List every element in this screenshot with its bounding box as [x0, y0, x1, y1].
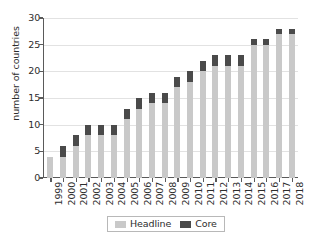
legend-item-headline[interactable]: Headline [115, 219, 171, 229]
bar-group[interactable] [73, 135, 79, 178]
bar-segment-core[interactable] [289, 29, 295, 34]
bar-group[interactable] [98, 125, 104, 178]
bar-segment-core[interactable] [251, 39, 257, 44]
x-axis-tick-label: 2009 [181, 182, 191, 205]
bar-segment-headline[interactable] [276, 34, 282, 178]
bar-segment-headline[interactable] [162, 103, 168, 178]
bar-segment-core[interactable] [73, 135, 79, 146]
bar-group[interactable] [174, 77, 180, 178]
bar-segment-headline[interactable] [225, 66, 231, 178]
bar-segment-headline[interactable] [187, 82, 193, 178]
bar-segment-core[interactable] [174, 77, 180, 88]
x-axis-tick-label: 2003 [105, 182, 115, 205]
x-axis-tick-label: 2017 [282, 182, 292, 205]
bar-segment-core[interactable] [111, 125, 117, 136]
bar-group[interactable] [263, 39, 269, 178]
bar-group[interactable] [124, 109, 130, 178]
bar-segment-headline[interactable] [238, 66, 244, 178]
bar-group[interactable] [85, 125, 91, 178]
x-axis-tick-label: 2005 [130, 182, 140, 205]
bar-segment-headline[interactable] [200, 71, 206, 178]
bar-group[interactable] [225, 55, 231, 178]
bar-group[interactable] [149, 93, 155, 178]
x-axis-tick-label: 2012 [219, 182, 229, 205]
bars-layer [44, 18, 298, 178]
bar-segment-core[interactable] [124, 109, 130, 120]
x-axis-tick-label: 2011 [206, 182, 216, 205]
bar-segment-headline[interactable] [111, 135, 117, 178]
x-axis-tick-label: 1999 [54, 182, 64, 205]
legend-swatch-icon [115, 221, 126, 228]
bar-segment-headline[interactable] [212, 66, 218, 178]
bar-group[interactable] [60, 146, 66, 178]
bar-segment-core[interactable] [149, 93, 155, 104]
bar-group[interactable] [136, 98, 142, 178]
bar-group[interactable] [238, 55, 244, 178]
bar-group[interactable] [162, 93, 168, 178]
x-axis-tick-label: 2014 [244, 182, 254, 205]
x-axis-tick-label: 2008 [168, 182, 178, 205]
x-axis-tick-label: 2006 [143, 182, 153, 205]
bar-segment-core[interactable] [263, 39, 269, 44]
bar-group[interactable] [111, 125, 117, 178]
bar-segment-core[interactable] [225, 55, 231, 66]
x-axis-tick-label: 2001 [79, 182, 89, 205]
x-axis-tick-label: 2013 [232, 182, 242, 205]
bar-group[interactable] [200, 61, 206, 178]
x-axis-tick-label: 2015 [257, 182, 267, 205]
bar-segment-core[interactable] [136, 98, 142, 109]
bar-segment-core[interactable] [60, 146, 66, 157]
bar-segment-core[interactable] [85, 125, 91, 136]
legend-item-core[interactable]: Core [180, 219, 217, 229]
legend-swatch-icon [180, 221, 191, 228]
bar-group[interactable] [289, 29, 295, 178]
x-axis-tick-label: 2018 [295, 182, 305, 205]
y-axis-tick-labels: 051015202530 [21, 18, 40, 178]
legend-label: Headline [130, 219, 171, 229]
bar-segment-headline[interactable] [174, 87, 180, 178]
bar-segment-headline[interactable] [60, 157, 66, 178]
bar-segment-core[interactable] [276, 29, 282, 34]
bar-group[interactable] [251, 39, 257, 178]
x-axis-tick-label: 2007 [155, 182, 165, 205]
x-axis-tick-label: 2004 [117, 182, 127, 205]
bar-segment-headline[interactable] [124, 119, 130, 178]
bar-group[interactable] [276, 29, 282, 178]
bar-segment-headline[interactable] [289, 34, 295, 178]
bar-segment-core[interactable] [200, 61, 206, 72]
bar-segment-core[interactable] [162, 93, 168, 104]
x-axis-tick-label: 2016 [270, 182, 280, 205]
x-axis-tick-label: 2000 [67, 182, 77, 205]
bar-segment-headline[interactable] [136, 109, 142, 178]
chart-legend: HeadlineCore [107, 216, 225, 232]
bar-segment-headline[interactable] [251, 45, 257, 178]
bar-segment-headline[interactable] [85, 135, 91, 178]
bar-segment-headline[interactable] [73, 146, 79, 178]
bar-segment-headline[interactable] [149, 103, 155, 178]
bar-segment-headline[interactable] [47, 157, 53, 178]
chart-container: number of countries 051015202530 1999200… [0, 0, 328, 239]
bar-segment-headline[interactable] [263, 45, 269, 178]
bar-group[interactable] [212, 55, 218, 178]
x-axis-tick-labels: 1999200020012002200320042005200620072008… [44, 182, 298, 216]
x-axis-tick-label: 2010 [194, 182, 204, 205]
bar-group[interactable] [187, 71, 193, 178]
x-axis-tick-label: 2002 [92, 182, 102, 205]
y-axis-title: number of countries [10, 9, 21, 139]
bar-segment-core[interactable] [212, 55, 218, 66]
bar-segment-core[interactable] [238, 55, 244, 66]
bar-segment-core[interactable] [187, 71, 193, 82]
legend-label: Core [195, 219, 217, 229]
bar-segment-headline[interactable] [98, 135, 104, 178]
bar-group[interactable] [47, 157, 53, 178]
bar-segment-core[interactable] [98, 125, 104, 136]
